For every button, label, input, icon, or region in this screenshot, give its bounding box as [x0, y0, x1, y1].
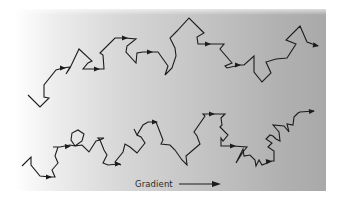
run-direction-arrowhead-icon	[147, 49, 153, 54]
run-direction-arrowhead-icon	[205, 41, 211, 46]
top-walk-line	[28, 18, 318, 107]
gradient-direction-arrow-icon	[179, 180, 221, 188]
run-direction-arrowhead-icon	[94, 66, 100, 71]
run-direction-arrowhead-icon	[230, 143, 236, 148]
run-direction-arrowhead-icon	[309, 109, 315, 114]
run-direction-arrowhead-icon	[209, 111, 215, 116]
bottom-walk-path	[22, 109, 315, 180]
top-walk-path	[28, 18, 319, 107]
run-direction-arrowhead-icon	[313, 42, 319, 47]
run-direction-arrowhead-icon	[235, 62, 241, 67]
gradient-legend: Gradient	[135, 177, 221, 191]
gradient-label: Gradient	[135, 179, 173, 189]
run-direction-arrowhead-icon	[115, 161, 121, 166]
run-direction-arrowhead-icon	[46, 174, 52, 179]
run-direction-arrowhead-icon	[122, 35, 128, 40]
walk-paths-canvas	[0, 0, 343, 201]
bottom-walk-line	[22, 111, 314, 177]
run-direction-arrowhead-icon	[60, 65, 66, 70]
random-walk-figure: Gradient	[0, 0, 343, 201]
